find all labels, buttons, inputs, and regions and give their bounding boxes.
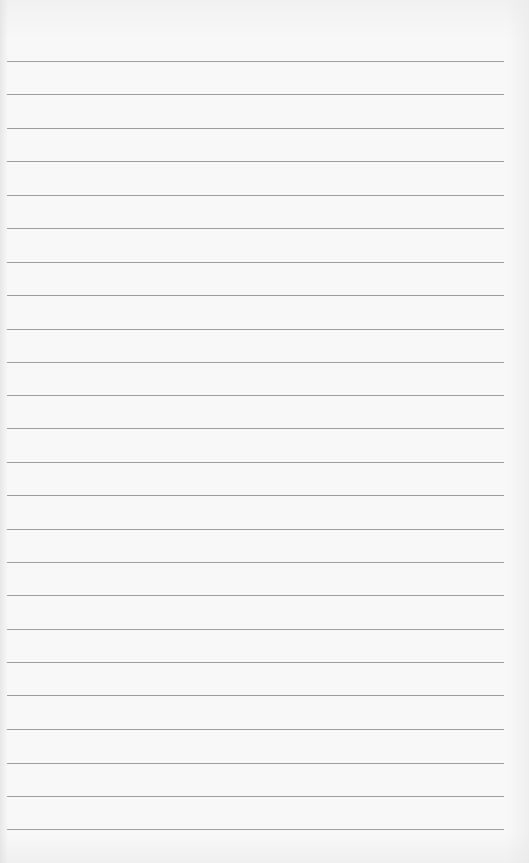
ruled-line xyxy=(7,829,504,830)
ruled-line xyxy=(7,195,504,196)
ruled-line xyxy=(7,61,504,62)
ruled-line xyxy=(7,763,504,764)
ruled-line xyxy=(7,94,504,95)
ruled-line xyxy=(7,695,504,696)
ruled-line xyxy=(7,161,504,162)
lined-paper xyxy=(0,0,529,863)
ruled-line xyxy=(7,629,504,630)
ruled-line xyxy=(7,529,504,530)
ruled-line xyxy=(7,362,504,363)
ruled-line xyxy=(7,262,504,263)
ruled-line xyxy=(7,595,504,596)
ruled-line xyxy=(7,428,504,429)
ruled-line xyxy=(7,562,504,563)
ruled-line xyxy=(7,228,504,229)
ruled-line xyxy=(7,796,504,797)
ruled-line xyxy=(7,462,504,463)
ruled-line xyxy=(7,395,504,396)
ruled-line xyxy=(7,128,504,129)
ruled-line xyxy=(7,729,504,730)
ruled-line xyxy=(7,329,504,330)
ruled-line xyxy=(7,495,504,496)
ruled-line xyxy=(7,295,504,296)
ruled-line xyxy=(7,662,504,663)
